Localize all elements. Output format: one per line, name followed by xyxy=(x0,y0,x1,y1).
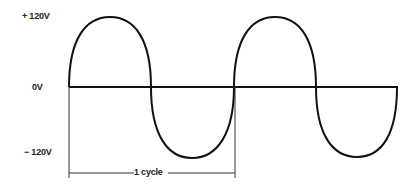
sine-wave-diagram xyxy=(0,0,420,186)
cycle-label: 1 cycle xyxy=(134,167,163,177)
